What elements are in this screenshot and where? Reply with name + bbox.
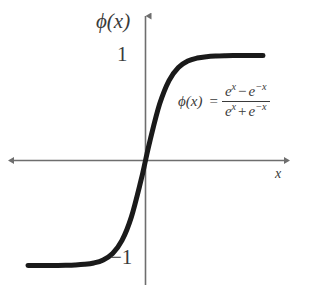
- denominator-term2-exponent: −x: [255, 101, 266, 112]
- numerator-term2-exponent: −x: [255, 81, 266, 92]
- plot-canvas: [0, 0, 320, 293]
- equation-denominator: ex+e−x: [222, 102, 270, 121]
- y-axis-label: ϕ(x): [96, 11, 130, 32]
- numerator-operator: −: [238, 83, 246, 99]
- equation-fraction: ex−e−x ex+e−x: [222, 82, 270, 121]
- equation-lhs: ϕ(x): [178, 93, 202, 110]
- denominator-operator: +: [238, 103, 246, 119]
- x-axis-label: x: [275, 167, 281, 181]
- numerator-term1-exponent: x: [232, 81, 237, 92]
- denominator-term1-exponent: x: [232, 101, 237, 112]
- denominator-term1-base: e: [225, 103, 232, 119]
- tanh-activation-figure: ϕ(x) x 1 −1 ϕ(x) = ex−e−x ex+e−x: [0, 0, 320, 293]
- y-tick-label-positive-one: 1: [117, 44, 128, 65]
- equation-annotation: ϕ(x) = ex−e−x ex+e−x: [178, 82, 270, 121]
- equation-equals-sign: =: [209, 93, 217, 110]
- numerator-term1-base: e: [225, 83, 232, 99]
- y-tick-label-negative-one: −1: [110, 247, 132, 268]
- equation-numerator: ex−e−x: [222, 82, 270, 101]
